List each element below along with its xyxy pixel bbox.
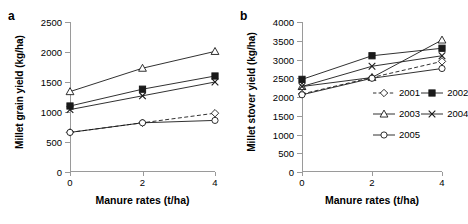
x-tick-label: 0 [299,177,304,188]
legend-item-2002: 2002 [420,88,468,98]
x-tick [215,172,216,176]
data-point-2002 [369,53,375,59]
data-point-2005 [439,65,445,71]
legend-marker-circle-open-icon [372,130,396,140]
legend-marker-cross-icon [420,109,444,119]
data-point-2005 [299,92,305,98]
x-tick [70,172,71,176]
x-tick [302,172,303,176]
data-point-2005 [212,117,218,123]
y-tick-label: 2000 [41,47,62,58]
data-point-2005 [139,120,145,126]
legend-label: 2005 [399,130,420,140]
legend-key-marker [381,132,387,138]
legend-label: 2004 [447,109,468,119]
y-tick-label: 1000 [41,107,62,118]
data-point-2002 [212,73,218,79]
data-point-2001 [211,110,218,117]
legend-item-2001: 2001 [372,88,420,98]
y-tick-label: 0 [57,167,62,178]
x-tick-label: 4 [212,177,217,188]
panel-b-x-axis-label: Manure rates (t/ha) [302,194,442,206]
x-tick-label: 2 [369,177,374,188]
legend-label: 2003 [399,109,420,119]
legend-row: 20032004 [372,109,460,119]
data-point-2002 [139,86,145,92]
legend-label: 2002 [447,88,468,98]
legend-marker-square-filled-icon [420,88,444,98]
legend-marker-triangle-open-icon [372,109,396,119]
y-tick-label: 500 [46,137,62,148]
x-tick-label: 4 [439,177,444,188]
y-tick-label: 3500 [273,35,294,46]
legend-label: 2001 [399,88,420,98]
y-tick-label: 1000 [273,129,294,140]
data-point-2003 [211,48,219,55]
legend-item-2005: 2005 [372,130,420,140]
legend-key-marker [380,89,387,96]
legend-item-2003: 2003 [372,109,420,119]
legend-marker-diamond-open-icon [372,88,396,98]
legend-row: 20012002 [372,88,460,98]
panel-a-x-axis-label: Manure rates (t/ha) [70,194,215,206]
y-tick-label: 3000 [273,54,294,65]
x-tick-label: 0 [67,177,72,188]
chart-legend: 20012002200320042005 [372,88,460,151]
x-tick [442,172,443,176]
y-tick-label: 500 [278,148,294,159]
y-tick-label: 0 [289,167,294,178]
panel-a: a Millet grain yield (kg/ha) 05001000150… [0,0,232,224]
legend-row: 2005 [372,130,460,140]
y-tick-label: 2500 [41,17,62,28]
y-tick-label: 1500 [41,77,62,88]
panel-a-series-layer [70,22,215,172]
y-tick-label: 2500 [273,73,294,84]
y-tick-label: 4000 [273,17,294,28]
legend-item-2004: 2004 [420,109,468,119]
x-tick [143,172,144,176]
data-point-2002 [439,45,445,51]
y-tick-label: 1500 [273,110,294,121]
data-point-2002 [299,76,305,82]
x-tick [372,172,373,176]
panel-a-plot-area: 05001000150020002500 024 [70,22,215,172]
data-point-2005 [67,129,73,135]
data-point-2005 [369,75,375,81]
y-tick-label: 2000 [273,92,294,103]
legend-key-marker [429,90,435,96]
panel-a-y-axis-label: Millet grain yield (kg/ha) [14,17,25,167]
panel-b-y-axis-label: Millet stover yield (kg/ha) [246,17,257,167]
x-tick-label: 2 [140,177,145,188]
